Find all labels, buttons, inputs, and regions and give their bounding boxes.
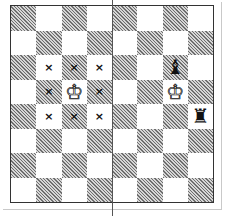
square-a8	[11, 6, 36, 31]
square-h6	[188, 55, 213, 80]
square-g6: ♝	[163, 55, 188, 80]
square-d3	[87, 129, 112, 154]
square-c5: ♔	[62, 80, 87, 105]
attacked-square-mark-icon: ×	[70, 110, 79, 123]
panel-divider	[112, 0, 113, 216]
square-b2	[36, 153, 61, 178]
square-f5	[137, 80, 162, 105]
square-h7	[188, 31, 213, 56]
square-a4	[11, 104, 36, 129]
square-d2	[87, 153, 112, 178]
square-e8	[112, 6, 137, 31]
square-a2	[11, 153, 36, 178]
square-g1	[163, 178, 188, 203]
square-e5	[112, 80, 137, 105]
attacked-square-mark-icon: ×	[95, 85, 104, 98]
square-e3	[112, 129, 137, 154]
square-b5: ×	[36, 80, 61, 105]
square-f1	[137, 178, 162, 203]
square-g2	[163, 153, 188, 178]
white-king-icon: ♔	[65, 82, 83, 102]
square-h1	[188, 178, 213, 203]
square-e6	[112, 55, 137, 80]
square-e7	[112, 31, 137, 56]
black-rook-icon: ♜	[191, 106, 209, 126]
square-c8	[62, 6, 87, 31]
square-e4	[112, 104, 137, 129]
square-h5	[188, 80, 213, 105]
square-c7	[62, 31, 87, 56]
square-a7	[11, 31, 36, 56]
square-h2	[188, 153, 213, 178]
square-g5: ♔	[163, 80, 188, 105]
square-d8	[87, 6, 112, 31]
square-d6: ×	[87, 55, 112, 80]
square-b6: ×	[36, 55, 61, 80]
square-f6	[137, 55, 162, 80]
square-f8	[137, 6, 162, 31]
square-f4	[137, 104, 162, 129]
attacked-square-mark-icon: ×	[95, 61, 104, 74]
square-h3	[188, 129, 213, 154]
square-g4	[163, 104, 188, 129]
square-c6: ×	[62, 55, 87, 80]
square-g3	[163, 129, 188, 154]
square-h4: ♜	[188, 104, 213, 129]
square-a1	[11, 178, 36, 203]
square-a3	[11, 129, 36, 154]
square-b7	[36, 31, 61, 56]
square-g7	[163, 31, 188, 56]
square-f7	[137, 31, 162, 56]
square-c2	[62, 153, 87, 178]
black-bishop-icon: ♝	[166, 57, 184, 77]
square-b8	[36, 6, 61, 31]
attacked-square-mark-icon: ×	[44, 85, 53, 98]
square-b1	[36, 178, 61, 203]
square-e2	[112, 153, 137, 178]
white-king-icon: ♔	[166, 82, 184, 102]
square-c4: ×	[62, 104, 87, 129]
square-d7	[87, 31, 112, 56]
square-d4: ×	[87, 104, 112, 129]
square-g8	[163, 6, 188, 31]
attacked-square-mark-icon: ×	[44, 61, 53, 74]
square-d5: ×	[87, 80, 112, 105]
attacked-square-mark-icon: ×	[70, 61, 79, 74]
square-a6	[11, 55, 36, 80]
square-a5	[11, 80, 36, 105]
square-f3	[137, 129, 162, 154]
square-c3	[62, 129, 87, 154]
square-c1	[62, 178, 87, 203]
square-d1	[87, 178, 112, 203]
attacked-square-mark-icon: ×	[95, 110, 104, 123]
attacked-square-mark-icon: ×	[44, 110, 53, 123]
square-b3	[36, 129, 61, 154]
square-b4: ×	[36, 104, 61, 129]
square-f2	[137, 153, 162, 178]
square-h8	[188, 6, 213, 31]
square-e1	[112, 178, 137, 203]
